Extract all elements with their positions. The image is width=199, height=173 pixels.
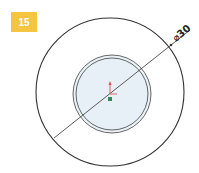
dimension-arrow-point: [170, 44, 173, 47]
origin-point: [108, 97, 112, 101]
diameter-dimension-label[interactable]: ⌀30: [170, 22, 192, 43]
sketch-canvas: ⌀30: [0, 0, 199, 173]
